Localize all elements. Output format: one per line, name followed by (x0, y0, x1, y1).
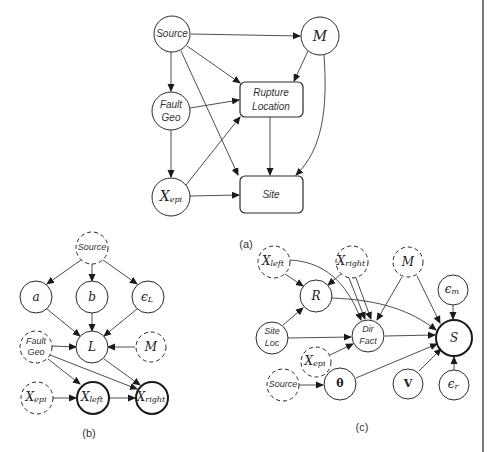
node-label: X (136, 390, 146, 404)
node-label-line1: Site (264, 326, 280, 336)
node-label: S (450, 331, 458, 345)
node-rupture-location: Rupture Location (240, 82, 303, 117)
edge-xleft-r (285, 274, 303, 286)
node-label-line1: Rupture (253, 87, 289, 98)
node-label: L (87, 340, 96, 354)
node-x-right-b: Xright (136, 382, 168, 414)
node-label-line2: Location (252, 101, 290, 112)
node-x-epi-b: Xepi (21, 382, 53, 414)
edge-source-rupture (187, 46, 240, 83)
edge-siteloc-dirfact (288, 337, 351, 338)
node-source-c: Source (267, 369, 299, 401)
node-label: Source (156, 28, 188, 39)
node-site: Site (240, 176, 303, 213)
node-label: M (144, 340, 158, 354)
node-subscript: right (345, 259, 366, 268)
bayesian-network-figure: Source M Fault Geo Rupture Location Xepi… (0, 0, 487, 452)
node-label: Source (269, 379, 298, 389)
node-label-line1: Dir (362, 324, 374, 334)
node-epsilon-l: ϵL (132, 281, 164, 313)
node-source-b: Source (76, 232, 108, 264)
edge-source-epsl (103, 260, 137, 284)
edge-faultgeo-l (52, 346, 76, 347)
node-x-right-c: Xright (336, 246, 368, 278)
node-subscript: epi (313, 359, 326, 368)
node-subscript: L (147, 295, 153, 304)
node-x-epi-c: Xepi (301, 347, 331, 377)
node-label: X (261, 254, 271, 268)
node-epsilon-m: ϵm (438, 275, 468, 305)
node-label-line1: Fault (26, 336, 47, 346)
node-subscript: epi (34, 395, 47, 404)
node-subscript: epi (170, 195, 183, 204)
node-r: R (300, 280, 332, 312)
node-label: Site (262, 189, 280, 200)
edge-m-s (417, 276, 440, 323)
node-v: V (393, 369, 423, 399)
node-l: L (76, 331, 108, 363)
node-x-epi: Xepi (152, 178, 190, 216)
node-fault-geo: Fault Geo (152, 92, 190, 130)
node-label: X (336, 254, 346, 268)
node-dir-fact: Dir Fact (352, 320, 384, 352)
node-label: X (80, 390, 90, 404)
panel-c: Xleft Xright M ϵm R Site Loc Dir Fact (256, 246, 472, 433)
node-label: V (403, 377, 413, 390)
panel-caption-c: (c) (356, 421, 369, 433)
node-label: M (401, 255, 415, 269)
node-x-left-c: Xleft (258, 246, 290, 278)
node-m: M (301, 17, 339, 55)
node-m-c: M (393, 247, 423, 277)
edge-source-a (47, 260, 81, 284)
node-label: X (25, 390, 35, 404)
edge-m-dirfact (377, 277, 402, 320)
edge-xepi-site (190, 195, 239, 196)
panel-caption-b: (b) (82, 427, 95, 439)
node-source: Source (154, 16, 190, 52)
edge-source-m (191, 34, 300, 36)
node-label: b (88, 290, 96, 304)
node-label: θ (336, 377, 343, 390)
edge-xright-r (328, 274, 341, 285)
node-label: R (310, 289, 320, 303)
edge-dirfact-s (385, 335, 435, 336)
node-theta: θ (324, 368, 356, 400)
edge-r-s (332, 298, 436, 330)
node-a: a (20, 281, 52, 313)
node-label-line2: Fact (359, 336, 377, 346)
node-label-line1: Fault (160, 99, 183, 110)
panel-a: Source M Fault Geo Rupture Location Xepi… (152, 16, 339, 250)
edge-epsl-l (104, 309, 137, 336)
node-fault-geo-b: Fault Geo (20, 331, 52, 363)
node-label: Source (78, 242, 107, 252)
node-label: X (304, 354, 314, 368)
node-label-line2: Loc (265, 338, 280, 348)
node-label-line2: Geo (162, 112, 181, 123)
node-label: M (312, 28, 328, 44)
node-epsilon-r: ϵr (439, 370, 469, 400)
node-subscript: left (271, 259, 285, 268)
edge-faultgeo-rupture (190, 100, 239, 108)
edge-xepi-dirfact (330, 344, 353, 355)
node-subscript: left (90, 395, 104, 404)
node-s: S (436, 320, 472, 356)
edge-siteloc-r (283, 308, 303, 325)
node-label: a (32, 290, 39, 304)
edge-v-s (419, 349, 441, 371)
node-b: b (76, 281, 108, 313)
node-label-line2: Geo (27, 347, 44, 357)
edge-l-xright (104, 359, 140, 385)
node-site-loc: Site Loc (256, 322, 288, 354)
node-subscript: right (145, 395, 166, 404)
edge-a-l (47, 309, 80, 336)
edge-xepi-rupture (186, 117, 240, 185)
edge-faultgeo-xleft (48, 359, 80, 384)
panel-b: Source a b ϵL Fault Geo L M Xepi (20, 232, 168, 439)
node-subscript: m (452, 287, 460, 296)
edge-m-rupture (294, 51, 308, 81)
panel-caption-a: (a) (239, 238, 252, 250)
node-x-left-b: Xleft (77, 382, 109, 414)
node-m-b: M (136, 332, 166, 362)
